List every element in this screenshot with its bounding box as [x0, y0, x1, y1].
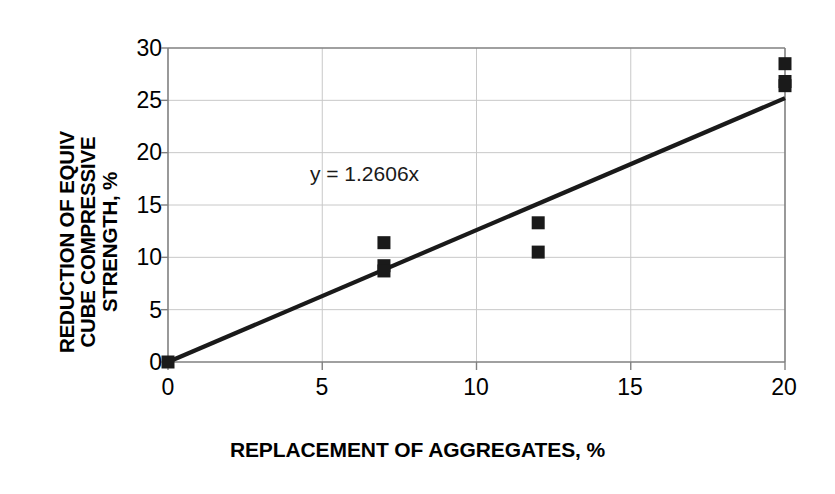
- data-point-marker: [779, 79, 792, 92]
- plot-area: y = 1.2606x: [0, 0, 835, 494]
- data-point-marker: [532, 246, 545, 259]
- equation-annotation: y = 1.2606x: [310, 162, 420, 185]
- data-point-marker: [779, 57, 792, 70]
- data-point-marker: [377, 264, 390, 277]
- data-point-marker: [377, 236, 390, 249]
- axis-ticks: [161, 48, 785, 370]
- data-point-marker: [162, 356, 175, 369]
- gridlines: [168, 48, 785, 362]
- data-point-marker: [532, 216, 545, 229]
- chart-figure: REDUCTION OF EQUIV CUBE COMPRESSIVE STRE…: [0, 0, 835, 494]
- equation-label: y = 1.2606x: [310, 162, 420, 185]
